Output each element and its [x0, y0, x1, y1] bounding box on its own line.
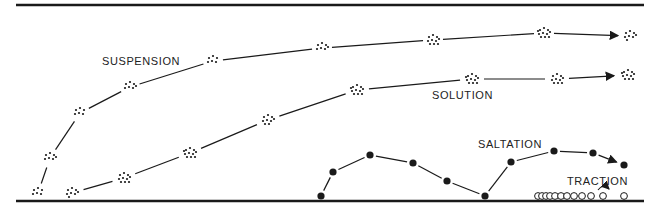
solution-particle-cluster — [350, 84, 364, 95]
solution-particle-cluster — [621, 69, 635, 80]
suspension-particle-cluster — [316, 42, 329, 50]
solution-particle-cluster — [118, 172, 131, 183]
saltation-grain — [409, 159, 416, 166]
label-suspension: SUSPENSION — [102, 55, 180, 67]
saltation-path-segment — [489, 167, 508, 191]
suspension-path-segment — [554, 33, 618, 35]
solution-path-segment — [135, 157, 179, 173]
saltation-grain — [366, 151, 373, 158]
suspension-path-segment — [223, 49, 312, 60]
saltation-grain — [329, 168, 336, 175]
suspension-path-segment — [332, 41, 423, 48]
saltation-path-segment — [418, 166, 441, 178]
suspension-particle-cluster — [124, 81, 137, 89]
suspension-path-segment — [89, 92, 121, 109]
saltation-grain — [550, 147, 557, 154]
suspension-particle-cluster — [74, 107, 85, 115]
label-saltation: SALTATION — [478, 138, 542, 150]
solution-particle-cluster — [262, 114, 275, 125]
solution-path-segment — [369, 80, 460, 89]
traction-grain — [564, 193, 571, 200]
suspension-path-segment — [56, 121, 75, 149]
suspension-path-segment — [41, 167, 47, 183]
solution-particle-cluster — [183, 147, 197, 158]
solution-path-segment — [201, 125, 257, 149]
traction-grain — [621, 193, 628, 200]
suspension-particle-cluster — [624, 30, 637, 41]
suspension-particle-cluster — [32, 187, 43, 195]
solution-particle-cluster — [465, 73, 479, 84]
solution-path-segment — [279, 94, 345, 116]
saltation-grain — [589, 149, 596, 156]
suspension-particle-cluster — [207, 55, 218, 63]
solution-path-segment — [569, 76, 614, 79]
sediment-transport-diagram: SUSPENSION SOLUTION SALTATION TRACTION — [0, 0, 660, 215]
saltation-path-segment — [517, 152, 548, 160]
saltation-path-segment — [599, 155, 617, 162]
suspension-particle-cluster — [537, 27, 551, 38]
solution-particle-cluster — [551, 73, 564, 84]
saltation-path-segment — [324, 177, 331, 190]
traction-grain — [588, 193, 595, 200]
saltation-path-segment — [560, 151, 587, 152]
saltation-path-segment — [453, 183, 480, 194]
saltation-grain — [443, 177, 450, 184]
suspension-path-segment — [443, 34, 534, 40]
traction-grain — [571, 193, 578, 200]
saltation-grain — [317, 192, 324, 199]
traction-grain — [600, 193, 607, 200]
saltation-grain — [507, 158, 514, 165]
diagram-canvas — [0, 0, 660, 215]
label-solution: SOLUTION — [432, 89, 493, 101]
saltation-grain — [481, 192, 488, 199]
suspension-particle-cluster — [44, 152, 57, 160]
saltation-grain — [620, 161, 627, 168]
saltation-path-segment — [376, 156, 407, 162]
solution-path-segment — [84, 181, 113, 189]
traction-grain — [579, 193, 586, 200]
label-traction: TRACTION — [567, 175, 628, 187]
suspension-particle-cluster — [427, 34, 440, 45]
saltation-path-segment — [338, 158, 364, 170]
solution-particle-cluster — [66, 187, 79, 198]
